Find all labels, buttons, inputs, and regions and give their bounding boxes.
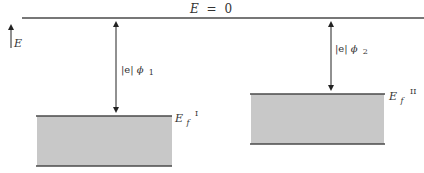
metal-1-band	[37, 116, 172, 166]
fermi-level-2-label: E f II	[388, 87, 416, 106]
energy-band-diagram: E = 0 E |e| ϕ 1 E f I |e| ϕ 2 E f II	[0, 0, 424, 173]
metal-2-band	[251, 94, 384, 144]
work-function-1-label: |e| ϕ 1	[121, 64, 154, 77]
energy-axis-label: E	[13, 37, 22, 50]
work-function-2-label: |e| ϕ 2	[335, 43, 368, 56]
vacuum-level-label: E = 0	[189, 2, 232, 16]
fermi-level-1-label: E f I	[174, 109, 198, 128]
